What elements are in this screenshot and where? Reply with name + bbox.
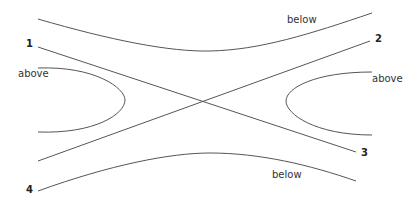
region-label-bottom: below [272,169,302,180]
line-label-4: 4 [26,184,33,195]
line-label-1: 1 [26,38,33,49]
line-label-3: 3 [361,147,368,158]
line-label-2: 2 [375,33,382,44]
left-hyperbola-branch [38,68,125,132]
region-label-top: below [287,14,317,25]
asymptote-line-1-3 [38,47,356,152]
asymptote-line-4-2 [38,41,370,161]
top-hyperbola-branch [38,13,372,51]
region-label-right: above [372,73,403,84]
bottom-hyperbola-branch [38,153,356,191]
region-label-left: above [18,68,49,79]
right-hyperbola-branch [286,72,372,135]
diagram-canvas [0,0,419,206]
